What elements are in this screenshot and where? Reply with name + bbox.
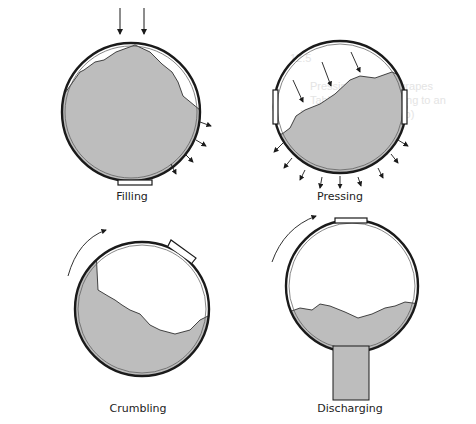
panel-filling	[60, 8, 211, 200]
panel-pressing	[270, 41, 410, 188]
panel-crumbling	[68, 230, 210, 390]
press-diagram	[0, 0, 476, 424]
label-discharging: Discharging	[290, 402, 410, 415]
label-pressing: Pressing	[280, 190, 400, 203]
panel-discharging	[272, 216, 420, 400]
label-crumbling: Crumbling	[78, 402, 198, 415]
label-filling: Filling	[72, 190, 192, 203]
